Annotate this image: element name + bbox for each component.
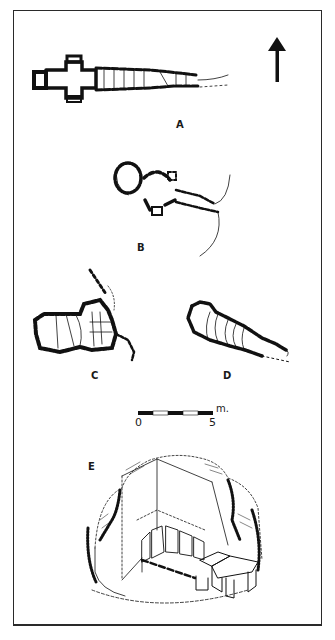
north-arrow-icon	[268, 37, 286, 82]
figure-drawings	[0, 0, 335, 640]
scale-bar	[138, 411, 213, 415]
panel-label-b: B	[137, 242, 145, 253]
panel-label-a: A	[176, 119, 184, 130]
scale-start-label: 0	[135, 416, 142, 429]
plan-c-drawing	[35, 270, 134, 360]
scale-unit-label: m.	[216, 403, 229, 414]
plan-b-drawing	[115, 163, 230, 256]
panel-label-d: D	[223, 370, 231, 381]
plan-d-drawing	[188, 302, 290, 362]
scale-end-label: 5	[209, 416, 216, 429]
panel-label-c: C	[91, 370, 98, 381]
plan-a-drawing	[34, 56, 228, 102]
isometric-e-drawing	[88, 455, 262, 603]
panel-label-e: E	[88, 461, 95, 472]
